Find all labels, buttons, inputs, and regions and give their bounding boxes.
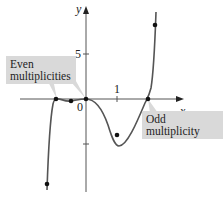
odd-multiplicity-callout: Odd multiplicity [142, 111, 223, 139]
y-axis-arrow-icon [83, 6, 89, 14]
x-axis-arrow-icon [176, 96, 184, 102]
origin-label: 0 [77, 100, 83, 114]
even-multiplicities-callout: Even multiplicities [6, 56, 76, 84]
point [45, 182, 50, 187]
y-axis-label: y [75, 2, 82, 16]
point [115, 133, 120, 138]
even-callout-line2: multiplicities [10, 70, 72, 82]
even-callout-line1: Even [10, 58, 72, 70]
polynomial-curve [47, 12, 156, 190]
x-tick-label: 1 [114, 82, 120, 96]
point [84, 97, 89, 102]
graph: y x 5 1 0 [0, 0, 223, 199]
point [146, 97, 151, 102]
point [153, 23, 158, 28]
point [69, 99, 74, 104]
point [54, 97, 59, 102]
